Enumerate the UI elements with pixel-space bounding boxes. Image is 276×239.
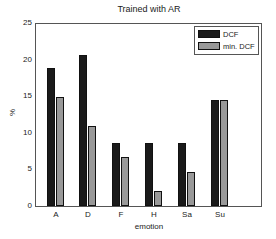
bar-d-min-dcf bbox=[88, 126, 96, 206]
bar-su-min-dcf bbox=[220, 100, 228, 206]
bar-f-dcf bbox=[112, 143, 120, 206]
y-axis-label: % bbox=[8, 109, 17, 116]
plot-area: DCF min. DCF bbox=[35, 23, 262, 207]
legend: DCF min. DCF bbox=[194, 26, 259, 55]
bar-sa-min-dcf bbox=[187, 172, 195, 206]
bar-sa-dcf bbox=[178, 143, 186, 206]
chart-title: Trained with AR bbox=[35, 4, 263, 14]
bar-f-min-dcf bbox=[121, 157, 129, 206]
x-tick-f: F bbox=[111, 210, 131, 219]
bar-a-dcf bbox=[47, 68, 55, 206]
y-tick-20: 20 bbox=[12, 55, 32, 64]
x-tick-a: A bbox=[46, 210, 66, 219]
y-tick-25: 25 bbox=[12, 18, 32, 27]
legend-swatch-min-dcf bbox=[198, 42, 220, 50]
y-tick-15: 15 bbox=[12, 91, 32, 100]
legend-item-min-dcf: min. DCF bbox=[198, 42, 255, 50]
x-tick-sa: Sa bbox=[177, 210, 197, 219]
bar-su-dcf bbox=[211, 100, 219, 206]
x-tick-su: Su bbox=[210, 210, 230, 219]
bar-d-dcf bbox=[79, 55, 87, 206]
bar-h-dcf bbox=[145, 143, 153, 206]
y-tick-10: 10 bbox=[12, 128, 32, 137]
x-axis-label: emotion bbox=[35, 222, 263, 231]
x-tick-h: H bbox=[144, 210, 164, 219]
legend-swatch-dcf bbox=[198, 30, 220, 38]
legend-item-dcf: DCF bbox=[198, 30, 238, 38]
y-tick-0: 0 bbox=[12, 201, 32, 210]
x-tick-d: D bbox=[78, 210, 98, 219]
y-tick-5: 5 bbox=[12, 164, 32, 173]
legend-label-min-dcf: min. DCF bbox=[223, 42, 255, 51]
bar-h-min-dcf bbox=[154, 191, 162, 206]
bar-a-min-dcf bbox=[56, 97, 64, 206]
legend-label-dcf: DCF bbox=[223, 30, 238, 39]
